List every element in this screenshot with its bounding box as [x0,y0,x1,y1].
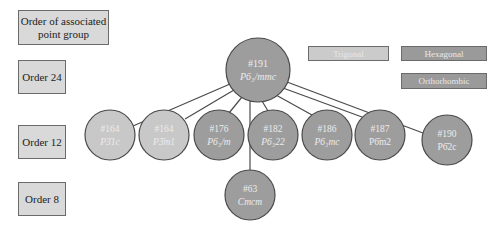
edge-191-182 [262,101,268,111]
node-182-symbol: P6₃22 [260,137,285,147]
node-186-number: #186 [318,124,337,134]
node-187[interactable]: #187 P6̄m2 [355,110,405,160]
node-187-number: #187 [371,124,390,134]
node-187-symbol: P6̄m2 [369,137,391,147]
node-191-symbol: P6₃/mmc [239,71,277,82]
node-191-number: #191 [248,58,268,69]
node-63[interactable]: #63 Cmcm [225,170,275,220]
node-164b-symbol: P3̄m1 [152,137,175,147]
node-190-number: #190 [438,129,457,139]
node-190[interactable]: #190 P6̄2c [422,115,472,165]
node-182[interactable]: #182 P6₃22 [248,110,298,160]
node-186-symbol: P6₃mc [314,137,341,147]
node-164b[interactable]: #164 P3̄m1 [139,110,189,160]
node-164a-symbol: P3̄1c [99,137,120,147]
node-182-number: #182 [264,124,283,134]
node-63-symbol: Cmcm [238,197,262,207]
node-164a[interactable]: #164 P3̄1c [85,110,135,160]
node-176[interactable]: #176 P6₃/m [194,110,244,160]
node-186[interactable]: #186 P6₃mc [302,110,352,160]
node-63-number: #63 [243,184,258,194]
node-164b-number: #164 [155,124,174,134]
node-164a-number: #164 [101,124,120,134]
subgroup-tree: #191 P6₃/mmc #164 P3̄1c #164 P3̄m1 #176 … [0,0,495,236]
node-176-symbol: P6₃/m [206,137,230,147]
node-176-number: #176 [210,124,229,134]
node-190-symbol: P6̄2c [438,142,457,152]
node-191[interactable]: #191 P6₃/mmc [226,38,290,102]
edge-191-176 [229,97,242,113]
